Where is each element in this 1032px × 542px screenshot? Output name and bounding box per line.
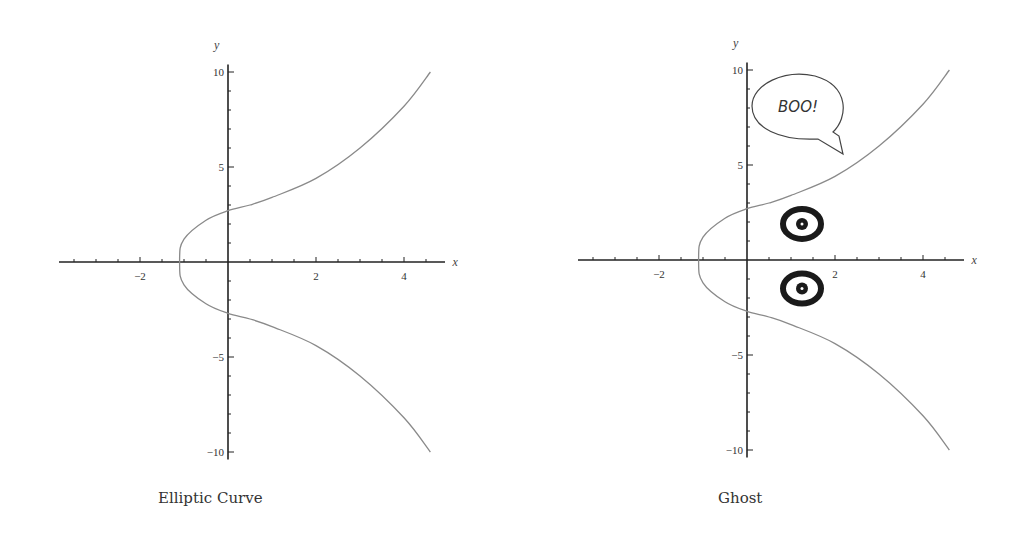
- bubble-text: BOO!: [778, 98, 818, 116]
- x-axis-label: x: [451, 255, 458, 269]
- y-tick-label: −10: [207, 446, 225, 458]
- x-tick-label: 4: [401, 270, 407, 282]
- x-tick-label: 4: [920, 268, 926, 280]
- y-axis-label: y: [213, 38, 220, 52]
- y-tick-label: −10: [726, 444, 744, 456]
- elliptic-curve-chart: −224105−5−10xy: [59, 38, 458, 459]
- eye-icon: [783, 274, 821, 304]
- x-tick-label: −2: [134, 270, 146, 282]
- caption-ghost: Ghost: [718, 489, 762, 507]
- x-tick-label: 2: [313, 270, 319, 282]
- figure: −224105−5−10xy −224105−5−10xyBOO!: [0, 0, 1032, 542]
- ghost-chart: −224105−5−10xyBOO!: [578, 36, 977, 457]
- speech-bubble: BOO!: [752, 74, 843, 154]
- y-tick-label: 10: [732, 64, 744, 76]
- y-tick-label: −5: [731, 349, 743, 361]
- y-tick-label: 5: [738, 159, 744, 171]
- eye-icon: [783, 209, 821, 239]
- caption-elliptic-curve: Elliptic Curve: [158, 489, 263, 507]
- y-axis-label: y: [732, 36, 739, 50]
- y-tick-label: 5: [219, 161, 225, 173]
- x-axis-label: x: [970, 253, 977, 267]
- x-tick-label: −2: [653, 268, 665, 280]
- y-tick-label: 10: [213, 66, 225, 78]
- y-tick-label: −5: [212, 351, 224, 363]
- curve-branch: [180, 72, 431, 262]
- x-tick-label: 2: [832, 268, 838, 280]
